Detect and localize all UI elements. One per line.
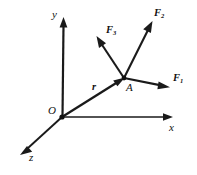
z-axis-line xyxy=(28,117,62,148)
x-axis-arrowhead xyxy=(163,113,173,121)
r-vector-line xyxy=(62,83,117,118)
position-vector-label: r xyxy=(92,82,96,93)
diagram-canvas xyxy=(0,0,197,175)
force3-label-base: F xyxy=(106,24,113,35)
force2-label-base: F xyxy=(154,7,161,18)
y-axis-label: y xyxy=(52,9,57,20)
force-diagram-figure: y x z O A r F1 F2 F3 xyxy=(0,0,197,175)
force-vector-f2 xyxy=(124,21,153,78)
z-axis-label: z xyxy=(29,152,33,163)
f3-vector-line xyxy=(102,44,125,78)
force-vector-f3 xyxy=(97,36,125,78)
f1-vector-arrowhead xyxy=(157,82,170,90)
point-a-label: A xyxy=(126,82,133,93)
x-axis-label: x xyxy=(169,122,174,133)
f3-vector-arrowhead xyxy=(97,36,107,48)
y-axis-line xyxy=(63,25,64,117)
f2-vector-line xyxy=(124,30,148,78)
y-axis xyxy=(60,17,68,117)
origin-point-marker xyxy=(59,114,64,119)
x-axis xyxy=(62,113,173,121)
point-a-marker xyxy=(122,76,127,81)
f2-vector-arrowhead xyxy=(143,21,152,33)
force2-label: F2 xyxy=(154,8,164,19)
force2-label-subscript: 2 xyxy=(161,12,164,19)
force1-label: F1 xyxy=(173,73,183,84)
force3-label-subscript: 3 xyxy=(113,29,116,36)
force1-label-subscript: 1 xyxy=(180,77,183,84)
origin-label: O xyxy=(48,105,56,116)
y-axis-arrowhead xyxy=(60,17,68,28)
z-axis xyxy=(20,117,62,155)
force3-label: F3 xyxy=(106,25,116,36)
force1-label-base: F xyxy=(173,72,180,83)
